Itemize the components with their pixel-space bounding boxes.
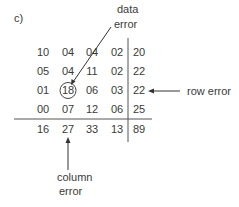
data-error-arrow-icon — [71, 27, 111, 85]
row-error-arrow-icon — [148, 89, 180, 94]
diagram-lines — [0, 0, 239, 207]
highlight-circle — [60, 83, 76, 99]
column-error-arrow-icon — [66, 137, 71, 170]
